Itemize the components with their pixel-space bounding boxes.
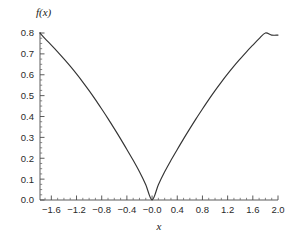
y-tick-label: 0.8 [21,27,34,38]
x-tick-label: −0.0 [143,204,162,215]
x-tick-label: −0.8 [92,204,111,215]
x-axis-title: x [156,220,162,232]
y-axis-title: f(x) [36,6,52,19]
plot-canvas: −1.6−1.2−0.8−0.4−0.00.40.81.21.62.0 0.00… [0,0,293,245]
x-tick-label: 2.0 [271,204,284,215]
x-axis-tick-labels: −1.6−1.2−0.8−0.4−0.00.40.81.21.62.0 [42,204,285,215]
y-tick-label: 0.3 [21,132,34,143]
x-tick-label: −0.4 [118,204,137,215]
x-tick-label: −1.2 [67,204,86,215]
y-axis-major-ticks [40,33,45,200]
x-tick-label: −1.6 [42,204,61,215]
x-tick-label: 1.2 [221,204,234,215]
x-tick-label: 0.4 [171,204,184,215]
y-tick-label: 0.6 [21,69,34,80]
x-tick-label: 0.8 [196,204,209,215]
y-axis-tick-labels: 0.00.10.20.30.40.50.60.70.8 [21,27,34,205]
y-tick-label: 0.5 [21,90,34,101]
x-tick-label: 1.6 [246,204,259,215]
y-tick-label: 0.7 [21,48,34,59]
data-curve-fx [40,33,278,200]
figure-container: −1.6−1.2−0.8−0.4−0.00.40.81.21.62.0 0.00… [0,0,293,245]
y-tick-label: 0.1 [21,174,34,185]
y-tick-label: 0.4 [21,111,34,122]
y-tick-label: 0.0 [21,194,34,205]
y-tick-label: 0.2 [21,153,34,164]
